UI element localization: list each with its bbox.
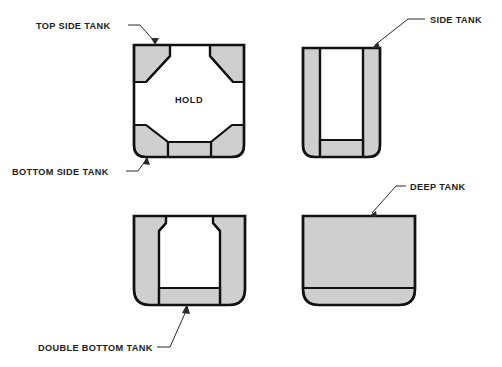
bottom-side-tank-label: BOTTOM SIDE TANK <box>12 167 109 177</box>
panel-bottom-right: DEEP TANK <box>303 182 465 305</box>
double-bottom-strip-top-right <box>320 140 363 157</box>
panel-top-right: SIDE TANK <box>303 15 482 157</box>
hold-label: HOLD <box>175 95 203 105</box>
figure-canvas: HOLD TOP SIDE TANK BOTTOM SIDE TANK <box>0 0 502 367</box>
side-tank-label: SIDE TANK <box>430 15 482 25</box>
deep-tank-label: DEEP TANK <box>410 182 465 192</box>
deep-tank-shape <box>303 216 415 305</box>
bottom-side-tank-leader <box>126 160 146 171</box>
side-tank-starboard-shape <box>363 48 380 157</box>
bottom-side-tank-port-shape <box>134 125 168 157</box>
double-bottom-tank-shape <box>159 288 220 305</box>
top-side-tank-label: TOP SIDE TANK <box>36 21 111 31</box>
panel-bottom-left: DOUBLE BOTTOM TANK <box>38 216 245 353</box>
top-side-tank-leader <box>128 25 155 42</box>
side-tank-port-shape <box>303 48 320 157</box>
double-bottom-tank-label: DOUBLE BOTTOM TANK <box>38 343 153 353</box>
tank-arrangement-diagram: HOLD TOP SIDE TANK BOTTOM SIDE TANK <box>0 0 502 367</box>
panel-top-left: HOLD TOP SIDE TANK BOTTOM SIDE TANK <box>12 21 244 177</box>
side-tank-leader <box>375 19 425 45</box>
double-bottom-strip-shape <box>168 142 211 157</box>
bottom-side-tank-starboard-shape <box>211 125 244 157</box>
double-bottom-tank-leader <box>157 311 186 347</box>
deep-tank-leader <box>372 186 406 213</box>
side-tank-arrowhead <box>372 42 380 48</box>
